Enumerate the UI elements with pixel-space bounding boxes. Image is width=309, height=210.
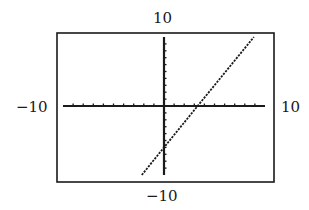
graph-plot xyxy=(0,0,309,210)
viewing-window-frame xyxy=(57,33,274,182)
axes xyxy=(63,37,265,175)
